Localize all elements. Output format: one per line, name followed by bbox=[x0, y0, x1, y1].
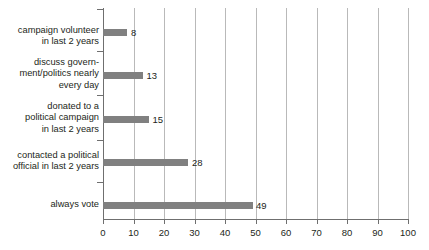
x-tick-80 bbox=[347, 219, 348, 224]
category-label-line: political campaign bbox=[3, 112, 99, 123]
bar-chart: 0 10 20 30 40 50 60 70 80 90 100 8 13 15… bbox=[0, 0, 429, 250]
category-label-line: donated to a bbox=[3, 101, 99, 112]
gridline-60 bbox=[286, 8, 287, 219]
category-label-line: in last 2 years bbox=[3, 124, 99, 135]
y-tick-boundary-4 bbox=[97, 182, 103, 183]
y-tick-boundary-2 bbox=[97, 95, 103, 96]
gridline-70 bbox=[317, 8, 318, 219]
x-tick-label-100: 100 bbox=[400, 227, 416, 238]
x-tick-label-70: 70 bbox=[311, 227, 322, 238]
y-tick-boundary-1 bbox=[97, 51, 103, 52]
x-tick-50 bbox=[256, 219, 257, 224]
gridline-20 bbox=[164, 8, 165, 219]
category-label-line: always vote bbox=[3, 199, 99, 210]
x-tick-30 bbox=[195, 219, 196, 224]
x-tick-40 bbox=[225, 219, 226, 224]
bar-always-vote bbox=[103, 202, 253, 209]
bar-discuss-government-politics bbox=[103, 72, 143, 79]
bar-value-contacted-political-official: 28 bbox=[192, 157, 203, 168]
x-tick-label-90: 90 bbox=[372, 227, 383, 238]
x-tick-100 bbox=[408, 219, 409, 224]
gridline-50 bbox=[256, 8, 257, 219]
bar-value-donated-political-campaign: 15 bbox=[153, 114, 164, 125]
category-label-contacted-political-official: contacted a political official in last 2… bbox=[3, 150, 99, 173]
category-label-line: in last 2 years bbox=[3, 36, 99, 47]
y-tick-boundary-top bbox=[97, 9, 103, 10]
x-tick-label-20: 20 bbox=[159, 227, 170, 238]
gridline-0 bbox=[103, 8, 104, 219]
category-label-always-vote: always vote bbox=[3, 199, 99, 210]
category-label-line: every day bbox=[3, 80, 99, 91]
x-tick-label-80: 80 bbox=[342, 227, 353, 238]
x-tick-label-40: 40 bbox=[220, 227, 231, 238]
bar-donated-political-campaign bbox=[103, 116, 149, 123]
gridline-80 bbox=[347, 8, 348, 219]
gridline-40 bbox=[225, 8, 226, 219]
x-tick-60 bbox=[286, 219, 287, 224]
bar-contacted-political-official bbox=[103, 159, 188, 166]
x-tick-label-30: 30 bbox=[189, 227, 200, 238]
category-label-donated-political-campaign: donated to a political campaign in last … bbox=[3, 101, 99, 135]
plot-area bbox=[103, 8, 408, 219]
y-tick-boundary-3 bbox=[97, 140, 103, 141]
gridline-100 bbox=[408, 8, 409, 219]
x-tick-20 bbox=[164, 219, 165, 224]
x-tick-label-0: 0 bbox=[100, 227, 105, 238]
category-label-line: discuss govern- bbox=[3, 57, 99, 68]
category-label-line: ment/politics nearly bbox=[3, 68, 99, 79]
category-label-line: campaign volunteer bbox=[3, 25, 99, 36]
bar-value-discuss-government-politics: 13 bbox=[147, 70, 158, 81]
bar-value-always-vote: 49 bbox=[256, 200, 267, 211]
category-label-line: contacted a political bbox=[3, 150, 99, 161]
x-tick-label-50: 50 bbox=[250, 227, 261, 238]
category-label-campaign-volunteer: campaign volunteer in last 2 years bbox=[3, 25, 99, 48]
x-tick-0 bbox=[103, 219, 104, 224]
category-label-line: official in last 2 years bbox=[3, 161, 99, 172]
x-tick-label-10: 10 bbox=[128, 227, 139, 238]
gridline-90 bbox=[378, 8, 379, 219]
gridline-30 bbox=[195, 8, 196, 219]
bar-campaign-volunteer bbox=[103, 29, 127, 36]
gridline-10 bbox=[134, 8, 135, 219]
x-tick-70 bbox=[317, 219, 318, 224]
x-tick-10 bbox=[134, 219, 135, 224]
x-tick-90 bbox=[378, 219, 379, 224]
x-tick-label-60: 60 bbox=[281, 227, 292, 238]
category-label-discuss-government-politics: discuss govern- ment/politics nearly eve… bbox=[3, 57, 99, 91]
bar-value-campaign-volunteer: 8 bbox=[131, 27, 136, 38]
